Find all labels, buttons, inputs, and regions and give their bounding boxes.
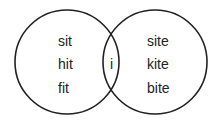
left-item-2: hit	[58, 56, 73, 72]
right-item-3: bite	[147, 80, 170, 96]
right-item-2: kite	[147, 56, 169, 72]
left-item-1: sit	[58, 33, 72, 49]
right-item-1: site	[147, 33, 169, 49]
intersection-item-1: i	[110, 56, 113, 72]
left-item-3: fit	[58, 80, 69, 96]
